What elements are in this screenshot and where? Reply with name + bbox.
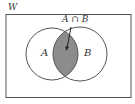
universe-label: W	[8, 3, 17, 12]
set-b-label: B	[84, 48, 91, 58]
set-a-label: A	[41, 48, 48, 58]
intersection-label: A ∩ B	[62, 15, 88, 24]
venn-diagram: W A ∩ B A B	[0, 0, 135, 104]
